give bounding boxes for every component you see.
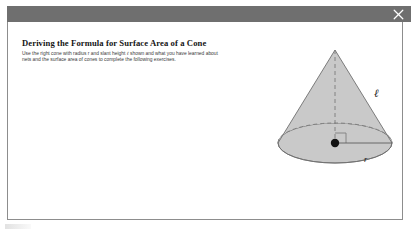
modal-titlebar	[7, 6, 411, 22]
radius-label: r	[364, 154, 367, 164]
lesson-modal-window: Deriving the Formula for Surface Area of…	[7, 6, 403, 220]
close-icon[interactable]	[390, 6, 406, 22]
instructions-text-part1: Use the right cone with radius r and sla…	[22, 51, 127, 56]
page-title: Deriving the Formula for Surface Area of…	[22, 38, 206, 48]
slant-height-label: ℓ	[374, 87, 379, 99]
center-point-dot	[331, 139, 339, 147]
modal-content-area: Deriving the Formula for Surface Area of…	[8, 23, 402, 219]
lesson-instructions: Use the right cone with radius r and sla…	[22, 51, 218, 64]
right-cone-diagram: ℓ r	[261, 41, 409, 191]
page-edge-artifact	[5, 224, 31, 229]
